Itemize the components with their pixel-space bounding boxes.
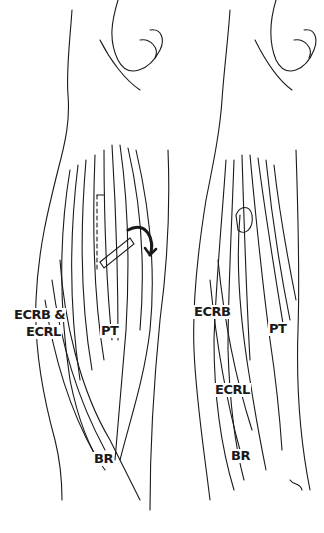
label-ecrl-right: ECRL [214, 383, 251, 397]
forearm-illustration [0, 0, 324, 533]
label-ecrl-left: ECRL [25, 325, 62, 339]
label-pt-left: PT [100, 324, 119, 338]
label-ecrb-ecrl-left-1: ECRB & [13, 308, 66, 322]
label-pt-right: PT [268, 322, 287, 336]
label-ecrb-right: ECRB [193, 305, 231, 319]
label-br-left: BR [93, 452, 114, 466]
label-br-right: BR [230, 449, 251, 463]
